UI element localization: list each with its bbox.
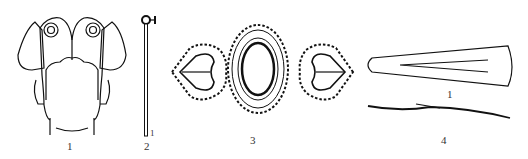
item-2-hairpin-drawing: [142, 16, 156, 136]
item-3-label: 3: [250, 134, 256, 146]
item-2-label: 2: [144, 140, 150, 152]
item-2-sub-label: 1: [150, 128, 155, 138]
item-4-tapered-pin-drawing: [368, 46, 512, 118]
item-1-head-drawing: [18, 18, 126, 135]
item-1-label: 1: [67, 140, 73, 152]
item-4-sub-label: 1: [447, 88, 453, 100]
figure-plate: 1 1 2 3 1 4: [0, 0, 528, 159]
line-drawings: [0, 0, 528, 159]
item-3-ornament-drawing: [172, 25, 353, 113]
item-4-label: 4: [441, 134, 447, 146]
